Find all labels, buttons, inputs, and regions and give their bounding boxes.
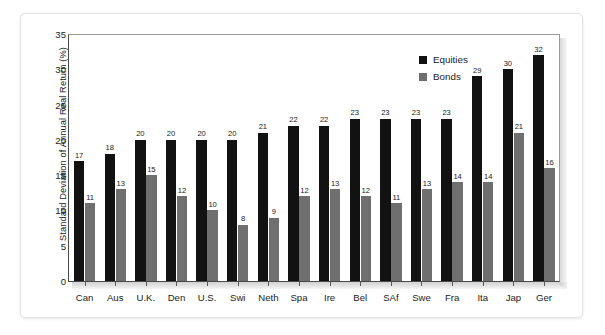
bar-group: 2012 — [161, 34, 192, 281]
bar-value-label: 13 — [331, 179, 339, 188]
bar-bonds-ire — [330, 189, 340, 281]
x-tick-mark — [330, 282, 331, 286]
bar-value-label: 21 — [259, 122, 267, 131]
x-tick-label-swe: Swe — [406, 292, 437, 303]
bar-group: 1711 — [69, 34, 100, 281]
bar-bonds-ger — [544, 168, 554, 281]
x-tick-label-neth: Neth — [253, 292, 284, 303]
y-tick-label-30: 30 — [21, 64, 66, 75]
bar-value-label: 14 — [453, 172, 461, 181]
bar-equities-swi — [227, 140, 237, 281]
x-tick-mark — [452, 282, 453, 286]
bar-value-label: 23 — [381, 108, 389, 117]
bar-value-label: 13 — [117, 179, 125, 188]
bar-bonds-swi — [238, 225, 248, 281]
bar-group: 3021 — [498, 34, 529, 281]
bar-group: 2312 — [345, 34, 376, 281]
x-tick-mark — [115, 282, 116, 286]
bar-bonds-neth — [269, 218, 279, 282]
y-tick-label-20: 20 — [21, 134, 66, 145]
y-tick-label-10: 10 — [21, 205, 66, 216]
y-tick-label-15: 15 — [21, 170, 66, 181]
bar-bonds-saf — [391, 203, 401, 281]
bar-group: 3216 — [529, 34, 560, 281]
bar-group: 2213 — [314, 34, 345, 281]
legend-item-bonds: Bonds — [419, 71, 468, 82]
legend-label-bonds: Bonds — [433, 71, 461, 82]
axis-shadow-right — [560, 38, 567, 286]
bar-value-label: 11 — [86, 193, 94, 202]
legend-swatch-bonds-icon — [419, 73, 427, 81]
bar-bonds-bel — [361, 196, 371, 281]
x-tick-label-fra: Fra — [437, 292, 468, 303]
bar-value-label: 23 — [412, 108, 420, 117]
x-tick-label-ger: Ger — [529, 292, 560, 303]
x-tick-mark — [268, 282, 269, 286]
legend-item-equities: Equities — [419, 54, 468, 65]
bar-equities-can — [74, 161, 84, 281]
bar-equities-bel — [350, 119, 360, 281]
bar-value-label: 21 — [515, 122, 523, 131]
bar-value-label: 30 — [504, 59, 512, 68]
bar-bonds-spa — [299, 196, 309, 281]
x-tick-mark — [85, 282, 86, 286]
bar-equities-ger — [533, 55, 543, 281]
bar-group: 1813 — [100, 34, 131, 281]
x-tick-mark — [176, 282, 177, 286]
x-tick-mark — [360, 282, 361, 286]
x-tick-mark — [483, 282, 484, 286]
bar-equities-spa — [288, 126, 298, 281]
x-tick-label-ire: Ire — [314, 292, 345, 303]
bar-bonds-jap — [514, 133, 524, 281]
bar-value-label: 13 — [423, 179, 431, 188]
x-tick-label-ita: Ita — [467, 292, 498, 303]
x-tick-label-aus: Aus — [100, 292, 131, 303]
bar-value-label: 29 — [473, 66, 481, 75]
y-tick-label-25: 25 — [21, 99, 66, 110]
bar-equities-uk — [135, 140, 145, 281]
x-tick-label-can: Can — [69, 292, 100, 303]
bar-group: 219 — [253, 34, 284, 281]
bar-value-label: 23 — [442, 108, 450, 117]
bar-value-label: 18 — [106, 143, 114, 152]
x-tick-label-uk: U.K. — [131, 292, 162, 303]
x-tick-label-spa: Spa — [284, 292, 315, 303]
x-tick-label-bel: Bel — [345, 292, 376, 303]
bar-value-label: 15 — [147, 165, 155, 174]
bar-value-label: 12 — [178, 186, 186, 195]
bar-group: 208 — [222, 34, 253, 281]
bar-value-label: 9 — [272, 207, 276, 216]
bar-value-label: 20 — [136, 129, 144, 138]
figure-root: Standard Deviation of Annual Real Return… — [0, 0, 605, 335]
bar-value-label: 11 — [392, 193, 400, 202]
bar-bonds-us — [207, 210, 217, 281]
bar-bonds-can — [85, 203, 95, 281]
bar-equities-jap — [503, 69, 513, 281]
bars-layer: 1711181320152012201020821922122213231223… — [69, 34, 559, 281]
x-tick-mark — [513, 282, 514, 286]
bar-value-label: 16 — [545, 158, 553, 167]
bar-value-label: 20 — [228, 129, 236, 138]
y-tick-label-35: 35 — [21, 29, 66, 40]
chart-frame: Standard Deviation of Annual Real Return… — [20, 13, 583, 318]
legend-swatch-equities-icon — [419, 56, 427, 64]
bar-value-label: 8 — [241, 214, 245, 223]
bar-value-label: 23 — [351, 108, 359, 117]
bar-value-label: 20 — [197, 129, 205, 138]
bar-value-label: 14 — [484, 172, 492, 181]
x-axis-labels: CanAusU.K.DenU.S.SwiNethSpaIreBelSAfSweF… — [69, 292, 559, 308]
bar-value-label: 12 — [300, 186, 308, 195]
bar-equities-saf — [380, 119, 390, 281]
bar-value-label: 20 — [167, 129, 175, 138]
x-tick-label-den: Den — [161, 292, 192, 303]
bar-chart: Standard Deviation of Annual Real Return… — [21, 14, 584, 319]
bar-equities-ire — [319, 126, 329, 281]
chart-legend: Equities Bonds — [419, 54, 468, 88]
bar-group: 2212 — [284, 34, 315, 281]
x-tick-mark — [421, 282, 422, 286]
bar-group: 2010 — [192, 34, 223, 281]
legend-label-equities: Equities — [433, 54, 468, 65]
x-tick-mark — [391, 282, 392, 286]
bar-bonds-fra — [452, 182, 462, 281]
bar-value-label: 10 — [208, 200, 216, 209]
